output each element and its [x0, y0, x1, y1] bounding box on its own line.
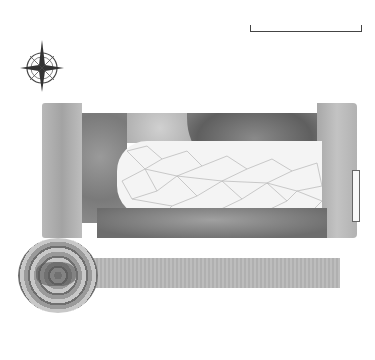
gate	[352, 170, 360, 222]
bottom-lawn-strip	[90, 258, 340, 288]
compass-rose-icon	[14, 38, 70, 94]
crazy-paving-patio	[117, 141, 322, 216]
garden-plan	[42, 103, 357, 238]
scale-bar	[250, 25, 362, 32]
circular-feature-center	[36, 262, 76, 286]
left-border-bed	[42, 103, 82, 238]
bottom-planting-bed	[97, 208, 327, 238]
